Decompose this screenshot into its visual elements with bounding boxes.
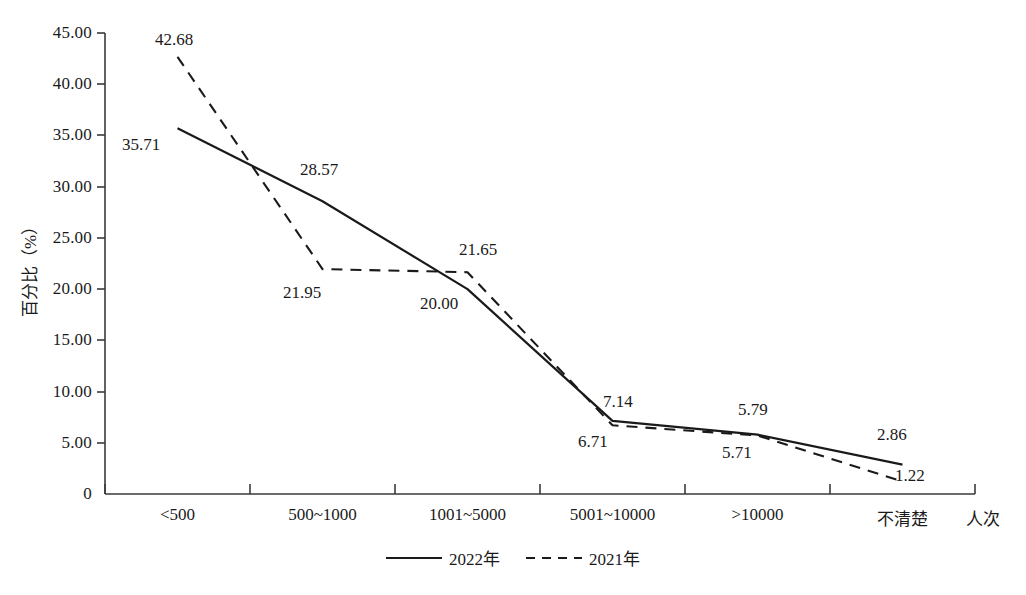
x-axis-unit-label: 人次 <box>966 505 1000 530</box>
x-tick-label-unknown: 不清楚 <box>830 505 975 530</box>
data-label-2022-gt10000: 5.79 <box>738 400 768 420</box>
data-label-2021-1001-5000: 21.65 <box>459 240 497 260</box>
legend-label-2022: 2022年 <box>449 545 500 570</box>
x-tick-label-1001-5000: 1001~5000 <box>395 505 540 525</box>
data-label-2022-5001-10000: 7.14 <box>603 392 633 412</box>
data-label-2022-lt500: 35.71 <box>122 135 160 155</box>
y-tick-label-35: 35.00 <box>10 125 92 145</box>
x-tick-label-lt500: <500 <box>105 505 250 525</box>
x-tick-label-5001-10000: 5001~10000 <box>540 505 685 525</box>
data-label-2021-unknown: 1.22 <box>895 466 925 486</box>
data-label-2022-unknown: 2.86 <box>877 425 907 445</box>
y-tick-label-40: 40.00 <box>10 74 92 94</box>
line-chart: 百分比（%） 45.00 40.00 35.00 30.00 25.00 20.… <box>0 0 1026 595</box>
legend-swatch-dashed-icon <box>526 552 582 564</box>
y-tick-label-0: 0 <box>10 484 92 504</box>
y-tick-label-20: 20.00 <box>10 279 92 299</box>
y-tick-label-30: 30.00 <box>10 177 92 197</box>
data-label-2021-gt10000: 5.71 <box>722 443 752 463</box>
x-tick-marks <box>105 484 975 494</box>
data-label-2021-500-1000: 21.95 <box>283 283 321 303</box>
y-tick-label-15: 15.00 <box>10 330 92 350</box>
chart-legend: 2022年 2021年 <box>0 545 1026 570</box>
legend-item-2021[interactable]: 2021年 <box>526 545 640 570</box>
y-axis-title: 百分比（%） <box>16 188 41 348</box>
y-tick-marks <box>97 33 105 443</box>
legend-label-2021: 2021年 <box>589 545 640 570</box>
y-tick-label-5: 5.00 <box>10 433 92 453</box>
x-tick-label-gt10000: >10000 <box>685 505 830 525</box>
data-label-2022-1001-5000: 20.00 <box>420 294 458 314</box>
legend-swatch-solid-icon <box>386 552 442 564</box>
y-tick-label-25: 25.00 <box>10 228 92 248</box>
data-label-2022-500-1000: 28.57 <box>300 160 338 180</box>
series-line-2021 <box>178 57 903 482</box>
data-label-2021-lt500: 42.68 <box>155 30 193 50</box>
y-tick-label-10: 10.00 <box>10 382 92 402</box>
data-label-2021-5001-10000: 6.71 <box>578 432 608 452</box>
x-tick-label-500-1000: 500~1000 <box>250 505 395 525</box>
legend-item-2022[interactable]: 2022年 <box>386 545 500 570</box>
y-tick-label-45: 45.00 <box>10 23 92 43</box>
